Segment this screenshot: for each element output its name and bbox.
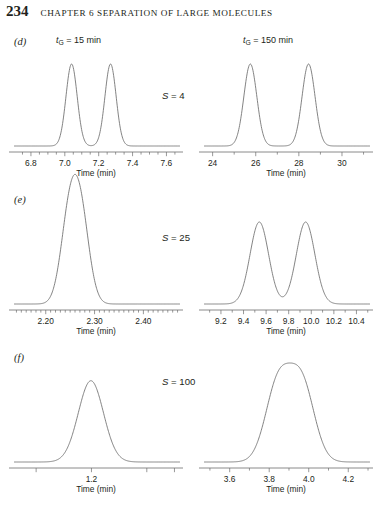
axis-tick-label: 30 [337, 158, 347, 168]
figure-panel-d: (d)tG = 15 mintG = 150 minS = 46.87.07.2… [0, 32, 383, 190]
axis-tick-label: 10.0 [303, 316, 320, 326]
axis-tick-label: 7.0 [59, 158, 71, 168]
axis-tick-label: 6.8 [25, 158, 37, 168]
figure-page: 234 CHAPTER 6 SEPARATION OF LARGE MOLECU… [0, 0, 383, 512]
gradient-time-label: tG = 150 min [243, 35, 293, 45]
chromatogram-right: 3.63.84.04.2Time (min) [198, 362, 374, 498]
figure-panel-e: (e)S = 252.202.302.40Time (min)9.29.49.6… [0, 190, 383, 348]
gradient-time-label: tG = 15 min [56, 35, 101, 45]
running-head: 234 CHAPTER 6 SEPARATION OF LARGE MOLECU… [0, 3, 383, 20]
x-axis-title: Time (min) [76, 168, 116, 178]
axis-tick-label: 10.4 [348, 316, 365, 326]
chromatogram-left: 2.202.302.40Time (min) [8, 204, 184, 340]
axis-tick-label: 7.4 [127, 158, 139, 168]
axis-tick-label: 7.2 [93, 158, 105, 168]
chapter-title: CHAPTER 6 SEPARATION OF LARGE MOLECULES [41, 8, 273, 18]
signal-trace [14, 174, 180, 304]
chromatogram-right: 9.29.49.69.810.010.210.4Time (min) [198, 204, 374, 340]
axis-tick-label: 4.2 [342, 474, 354, 484]
axis-tick-label: 9.2 [215, 316, 227, 326]
signal-trace [204, 363, 370, 462]
x-axis-title: Time (min) [266, 484, 306, 494]
axis-tick-label: 26 [251, 158, 261, 168]
axis-tick-label: 1.2 [86, 474, 98, 484]
signal-trace [14, 381, 180, 462]
axis-tick-label: 4.0 [303, 474, 315, 484]
axis-tick-label: 24 [208, 158, 218, 168]
axis-tick-label: 28 [294, 158, 304, 168]
axis-tick-label: 2.40 [135, 316, 152, 326]
axis-tick-label: 3.8 [263, 474, 275, 484]
axis-tick-label: 9.8 [283, 316, 295, 326]
axis-tick-label: 9.6 [260, 316, 272, 326]
x-axis-title: Time (min) [266, 326, 306, 336]
chromatogram-left: 1.2Time (min) [8, 362, 184, 498]
signal-trace [14, 64, 180, 146]
signal-trace [204, 222, 370, 304]
axis-tick-label: 9.4 [238, 316, 250, 326]
x-axis-title: Time (min) [266, 168, 306, 178]
figure-panel-f: (f)S = 1001.2Time (min)3.63.84.04.2Time … [0, 348, 383, 506]
chromatogram-right: 24262830Time (min) [198, 46, 374, 182]
axis-tick-label: 2.30 [86, 316, 103, 326]
signal-trace [204, 64, 370, 146]
x-axis-title: Time (min) [76, 326, 116, 336]
axis-tick-label: 10.2 [326, 316, 343, 326]
chromatogram-left: 6.87.07.27.47.6Time (min) [8, 46, 184, 182]
figure-rows: (d)tG = 15 mintG = 150 minS = 46.87.07.2… [0, 32, 383, 506]
page-number: 234 [6, 3, 29, 20]
x-axis-title: Time (min) [76, 484, 116, 494]
axis-tick-label: 3.6 [224, 474, 236, 484]
axis-tick-label: 7.6 [161, 158, 173, 168]
axis-tick-label: 2.20 [38, 316, 55, 326]
